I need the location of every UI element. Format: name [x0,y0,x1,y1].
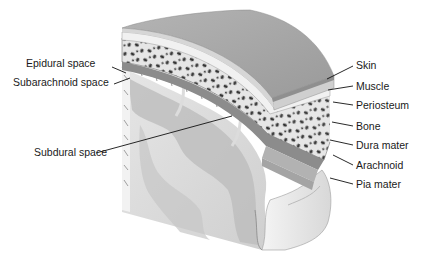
label-bone: Bone [356,120,381,132]
label-epidural-space: Epidural space [26,57,95,69]
label-pia-mater: Pia mater [356,178,401,190]
label-muscle: Muscle [356,80,389,92]
label-subarachnoid-space: Subarachnoid space [13,76,109,88]
label-subdural-space: Subdural space [34,146,107,158]
label-arachnoid: Arachnoid [356,159,403,171]
leader-pia [330,178,353,184]
leader-bone [332,122,353,126]
label-skin: Skin [356,59,376,71]
label-periosteum: Periosteum [356,99,409,111]
leader-arachnoid [333,155,353,165]
leader-dura [330,140,353,145]
leader-periosteum [333,102,353,105]
label-dura-mater: Dura mater [356,139,409,151]
